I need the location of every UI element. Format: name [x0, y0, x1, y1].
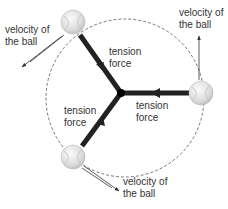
label-line: velocity of: [5, 24, 49, 36]
center-pivot: [117, 89, 125, 97]
label-line: force: [109, 58, 141, 70]
label-line: tension: [136, 100, 168, 112]
label-line: the ball: [179, 19, 223, 31]
ball-right: [189, 81, 213, 105]
ball-top: [61, 10, 85, 34]
label-tension-right: tension force: [136, 100, 168, 123]
label-line: tension: [64, 105, 96, 117]
label-line: the ball: [123, 188, 167, 200]
label-tension-left: tension force: [64, 105, 96, 128]
label-line: velocity of: [123, 176, 167, 188]
label-line: tension: [109, 46, 141, 58]
label-line: the ball: [5, 36, 49, 48]
label-line: force: [64, 117, 96, 129]
label-line: velocity of: [179, 7, 223, 19]
label-line: force: [136, 112, 168, 124]
label-velocity-bottom: velocity of the ball: [123, 176, 167, 199]
label-velocity-top-right: velocity of the ball: [179, 7, 223, 30]
label-velocity-top-left: velocity of the ball: [5, 24, 49, 47]
label-tension-top: tension force: [109, 46, 141, 69]
ball-bottom: [61, 145, 85, 169]
